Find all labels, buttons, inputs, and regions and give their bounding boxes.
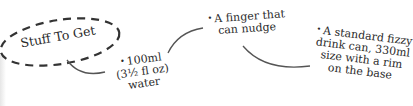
bullet-icon: • [316, 24, 322, 34]
connector-item1-to-item2 [168, 28, 203, 53]
list-item-water: •100ml (3½ fl oz) water [114, 49, 172, 93]
bullet-icon: • [207, 13, 212, 22]
connector-item2-to-item3 [243, 46, 310, 67]
bullet-icon: • [119, 56, 125, 66]
